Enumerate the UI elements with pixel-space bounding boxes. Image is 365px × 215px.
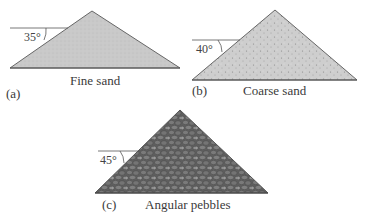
panel-tag-b: (b) (192, 83, 207, 99)
angle-label-c: 45° (100, 153, 117, 168)
panel-b-coarse-sand (192, 10, 357, 80)
caption-angular-pebbles: Angular pebbles (145, 197, 231, 213)
caption-fine-sand: Fine sand (70, 73, 120, 89)
angle-label-b: 40° (196, 42, 213, 57)
caption-coarse-sand: Coarse sand (243, 83, 306, 99)
panel-tag-c: (c) (102, 197, 116, 213)
angle-of-repose-diagram (0, 0, 365, 215)
panel-tag-a: (a) (6, 86, 20, 102)
panel-c-angular-pebbles (95, 110, 268, 193)
angle-label-a: 35° (24, 30, 41, 45)
